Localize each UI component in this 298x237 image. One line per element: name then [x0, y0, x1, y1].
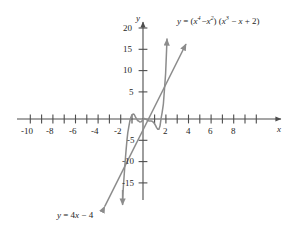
y-tick-label-15: 15	[123, 45, 132, 54]
x-tick-label--8: -8	[46, 127, 54, 136]
y-tick-label--15: -15	[122, 179, 134, 188]
x-tick-label-8: 8	[231, 127, 236, 136]
y-tick-label-20: 20	[123, 24, 132, 33]
polynomial-function-label: y = (x4 −x2) (x3 − x + 2)	[177, 17, 260, 26]
y-tick-label-5: 5	[129, 88, 134, 97]
x-tick-label-4: 4	[186, 127, 191, 136]
x-tick-label--4: -4	[91, 127, 99, 136]
x-tick-label--2: -2	[114, 127, 122, 136]
x-axis-label: x	[277, 125, 281, 134]
y-tick-label--5: -5	[127, 136, 135, 145]
plot-canvas	[0, 0, 298, 237]
linear-function-label: y = 4x − 4	[57, 211, 93, 220]
y-tick-label-10: 10	[123, 66, 132, 75]
x-tick-label-2: 2	[163, 127, 168, 136]
y-tick-label--10: -10	[122, 157, 134, 166]
x-tick-label--10: -10	[21, 127, 33, 136]
x-tick-label--6: -6	[69, 127, 77, 136]
graph-figure: -10 -8 -6 -4 -2 2 4 6 8 20 15 10 5 -5 -1…	[0, 0, 298, 237]
x-tick-label-6: 6	[208, 127, 213, 136]
y-axis-label: y	[136, 14, 140, 23]
